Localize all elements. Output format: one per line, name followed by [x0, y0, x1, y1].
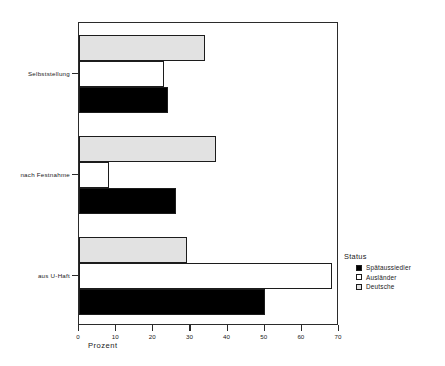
x-axis-tick	[264, 325, 265, 331]
bar-chart: Selbststellungnach Festnahmeaus U-Haft 0…	[0, 0, 445, 366]
x-axis-tick	[338, 325, 339, 331]
x-axis-tick	[152, 325, 153, 331]
x-axis-tick-label: 0	[76, 333, 79, 340]
y-axis-label-nach-festnahme: nach Festnahme	[20, 170, 70, 177]
bar-selbststellung-deutsche	[79, 35, 205, 61]
bar-selbststellung-sp-taussiedler	[79, 87, 168, 113]
legend-item-ausl-nder[interactable]: Ausländer	[356, 274, 442, 281]
plot-area	[78, 22, 338, 325]
x-axis-tick	[227, 325, 228, 331]
y-axis-tick	[72, 174, 78, 175]
legend-swatch-icon	[356, 265, 362, 271]
x-axis-title: Prozent	[88, 341, 118, 350]
x-axis-tick	[115, 325, 116, 331]
y-axis-tick	[72, 275, 78, 276]
x-axis-tick-label: 30	[186, 333, 193, 340]
bar-nach-festnahme-deutsche	[79, 136, 216, 162]
x-axis-tick-label: 50	[260, 333, 267, 340]
bar-aus-u-haft-deutsche	[79, 237, 187, 263]
legend-swatch-icon	[356, 284, 362, 290]
bar-selbststellung-ausl-nder	[79, 61, 164, 87]
bar-nach-festnahme-ausl-nder	[79, 162, 109, 188]
legend-item-label: Ausländer	[366, 274, 397, 281]
y-axis-tick	[72, 73, 78, 74]
legend-item-label: Deutsche	[366, 283, 395, 290]
legend-item-sp-taussiedler[interactable]: Spätaussiedler	[356, 264, 442, 271]
x-axis-tick	[189, 325, 190, 331]
bar-nach-festnahme-sp-taussiedler	[79, 188, 176, 214]
legend-title: Status	[344, 252, 442, 261]
x-axis-tick-label: 20	[149, 333, 156, 340]
y-axis-label-aus-u-haft: aus U-Haft	[38, 271, 70, 278]
x-axis-tick-label: 70	[335, 333, 342, 340]
legend: Status SpätaussiedlerAusländerDeutsche	[344, 252, 442, 293]
legend-item-deutsche[interactable]: Deutsche	[356, 283, 442, 290]
bar-aus-u-haft-ausl-nder	[79, 263, 332, 289]
legend-rows: SpätaussiedlerAusländerDeutsche	[344, 264, 442, 290]
legend-swatch-icon	[356, 274, 362, 280]
x-axis-tick	[301, 325, 302, 331]
x-axis-tick-label: 10	[112, 333, 119, 340]
x-axis-tick	[78, 325, 79, 331]
x-axis-tick-label: 40	[223, 333, 230, 340]
y-axis-label-selbststellung: Selbststellung	[28, 69, 70, 76]
bar-aus-u-haft-sp-taussiedler	[79, 289, 265, 315]
legend-item-label: Spätaussiedler	[366, 264, 411, 271]
x-axis-tick-label: 60	[297, 333, 304, 340]
